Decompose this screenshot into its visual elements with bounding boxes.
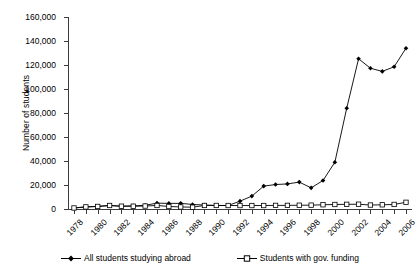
legend-label-gov-funding: Students with gov. funding	[260, 254, 359, 263]
x-tick	[347, 210, 348, 214]
data-point-diamond	[238, 199, 243, 204]
x-tick	[86, 210, 87, 214]
data-point-square	[333, 202, 337, 206]
data-point-diamond	[321, 178, 326, 183]
legend-label-all-students: All students studying abroad	[84, 254, 191, 263]
data-point-square	[380, 203, 384, 207]
open-square-icon	[237, 254, 257, 263]
data-point-square	[273, 203, 277, 207]
x-tick	[406, 210, 407, 214]
x-tick	[287, 210, 288, 214]
data-point-square	[119, 204, 123, 208]
plot-area: 020,00040,00060,00080,000100,000120,0001…	[68, 17, 412, 209]
x-tick	[169, 210, 170, 214]
y-tick-label: 160,000	[0, 13, 56, 22]
data-point-square	[202, 203, 206, 207]
x-tick	[240, 210, 241, 214]
data-point-square	[155, 203, 159, 207]
y-tick	[64, 209, 68, 210]
data-point-square	[84, 205, 88, 209]
x-tick	[323, 210, 324, 214]
x-tick	[216, 210, 217, 214]
x-tick	[110, 210, 111, 214]
data-point-diamond	[309, 186, 314, 191]
data-point-square	[190, 205, 194, 209]
chart-legend: All students studying abroad Students wi…	[0, 250, 420, 266]
data-point-square	[368, 203, 372, 207]
data-point-square	[131, 204, 135, 208]
data-point-square	[297, 203, 301, 207]
y-tick-label: 140,000	[0, 37, 56, 46]
data-point-diamond	[380, 69, 385, 74]
data-point-square	[226, 203, 230, 207]
data-point-square	[356, 202, 360, 206]
x-tick	[394, 210, 395, 214]
x-tick	[335, 210, 336, 214]
data-point-square	[143, 204, 147, 208]
data-point-square	[392, 202, 396, 206]
data-point-diamond	[333, 160, 338, 165]
x-tick	[276, 210, 277, 214]
legend-item-all-students: All students studying abroad	[61, 254, 191, 263]
y-tick-label: 100,000	[0, 85, 56, 94]
data-point-diamond	[285, 182, 290, 187]
data-point-square	[214, 203, 218, 207]
x-tick	[228, 210, 229, 214]
x-tick	[98, 210, 99, 214]
data-point-diamond	[392, 64, 397, 69]
y-tick-label: 120,000	[0, 61, 56, 70]
data-point-diamond	[297, 180, 302, 185]
line-chart: Number of students 020,00040,00060,00080…	[0, 0, 420, 279]
legend-item-gov-funding: Students with gov. funding	[237, 254, 359, 263]
data-point-square	[179, 205, 183, 209]
x-tick	[181, 210, 182, 214]
data-point-diamond	[404, 46, 409, 51]
x-tick	[382, 210, 383, 214]
x-tick	[204, 210, 205, 214]
x-tick	[299, 210, 300, 214]
x-tick	[370, 210, 371, 214]
x-tick	[264, 210, 265, 214]
x-tick	[311, 210, 312, 214]
data-point-square	[345, 202, 349, 206]
data-point-square	[167, 204, 171, 208]
data-point-square	[96, 204, 100, 208]
data-point-square	[72, 206, 76, 210]
x-tick	[145, 210, 146, 214]
y-tick-label: 60,000	[0, 133, 56, 142]
data-point-square	[107, 203, 111, 207]
x-tick	[157, 210, 158, 214]
data-point-square	[285, 203, 289, 207]
x-tick	[252, 210, 253, 214]
series-line	[74, 48, 406, 208]
data-point-square	[404, 200, 408, 204]
x-tick	[133, 210, 134, 214]
y-tick-label: 80,000	[0, 109, 56, 118]
y-tick-label: 20,000	[0, 181, 56, 190]
x-tick	[359, 210, 360, 214]
y-tick-label: 40,000	[0, 157, 56, 166]
x-tick	[121, 210, 122, 214]
data-point-diamond	[344, 106, 349, 111]
series-layer	[68, 17, 412, 209]
data-point-square	[250, 203, 254, 207]
data-point-square	[309, 203, 313, 207]
x-tick	[74, 210, 75, 214]
filled-diamond-icon	[61, 254, 81, 263]
data-point-square	[262, 203, 266, 207]
y-tick-label: 0	[0, 205, 56, 214]
data-point-square	[238, 203, 242, 207]
data-point-diamond	[273, 182, 278, 187]
series-all-students	[72, 46, 409, 210]
data-point-square	[321, 203, 325, 207]
x-tick	[193, 210, 194, 214]
